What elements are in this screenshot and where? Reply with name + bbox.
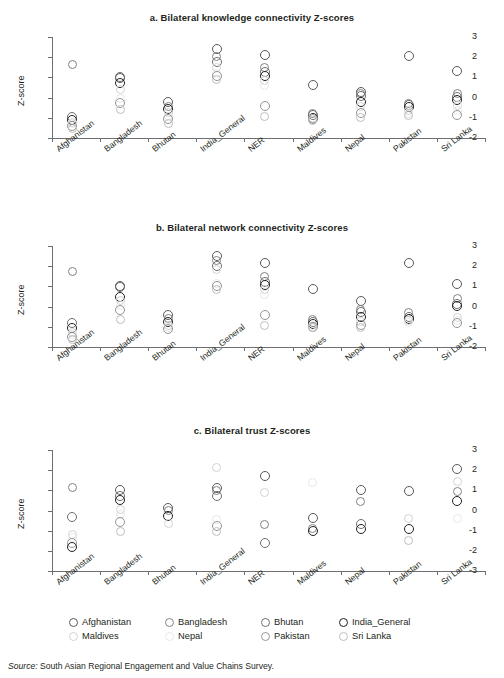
legend-item-sri-lanka[interactable]: Sri Lanka [339,631,435,641]
plot-area-b: 3210-1-2Z-scoreAfghanistanBangladeshBhut… [52,246,485,347]
data-point [260,258,270,268]
y-tick-b-2 [48,286,52,287]
y-tick-c-3 [48,511,52,512]
y-tick-label-c-3: 0 [472,506,477,515]
y-tick-label-b-4: -1 [469,322,477,331]
x-tick-c-3 [196,571,197,575]
legend-label: Bangladesh [178,617,227,627]
data-point [308,80,318,90]
y-tick-label-c-5: -2 [469,546,477,555]
data-point [115,517,125,527]
y-tick-label-a-1: 2 [472,52,477,61]
data-point [260,112,269,121]
data-point [115,282,125,292]
y-tick-label-b-0: 3 [472,241,477,250]
x-tick-b-9 [485,347,486,351]
y-tick-b-4 [48,327,52,328]
x-tick-b-6 [341,347,342,351]
plot-area-a: 3210-1-2Z-scoreAfghanistanBangladeshBhut… [52,37,485,138]
data-point [453,514,462,523]
panel-title-a: a. Bilateral knowledge connectivity Z-sc… [0,12,504,23]
x-axis-label-b-2: Bhutan [150,338,178,363]
legend-label: Sri Lanka [352,631,391,641]
x-axis-label-a-3: India_General [198,113,247,154]
legend-marker-icon [339,632,348,641]
data-point [68,335,77,344]
y-tick-c-5 [48,551,52,552]
y-tick-b-1 [48,266,52,267]
x-axis-label-c-6: Nepal [343,565,367,587]
y-tick-a-4 [48,118,52,119]
legend-item-nepal[interactable]: Nepal [165,631,261,641]
data-point [212,527,221,536]
data-point [115,305,125,315]
x-tick-c-5 [293,571,294,575]
data-point [68,483,77,492]
x-tick-c-1 [100,571,101,575]
y-tick-label-c-4: -1 [469,526,477,535]
legend-row-1: MaldivesNepalPakistanSri Lanka [0,631,504,641]
y-axis-label-b: Z-score [16,284,26,315]
panel-title-c: c. Bilateral trust Z-scores [0,425,504,436]
legend-marker-icon [165,618,174,627]
data-point [260,310,270,320]
data-point [404,536,413,545]
x-tick-a-5 [293,138,294,142]
data-point [116,315,125,324]
legend-marker-icon [261,632,270,641]
x-tick-c-6 [341,571,342,575]
legend-item-bhutan[interactable]: Bhutan [261,617,339,627]
legend-item-india-general[interactable]: India_General [339,617,435,627]
y-tick-b-3 [48,307,52,308]
y-tick-label-b-5: -2 [469,342,477,351]
x-axis-label-c-1: Bangladesh [102,551,144,587]
legend-item-maldives[interactable]: Maldives [69,631,165,641]
data-point [452,66,462,76]
data-point [356,524,366,534]
x-tick-b-1 [100,347,101,351]
source-note: Source: South Asian Regional Engagement … [8,661,274,671]
legend-item-afghanistan[interactable]: Afghanistan [69,617,165,627]
chart-legend: AfghanistanBangladeshBhutanIndia_General… [0,617,504,645]
legend-label: Afghanistan [82,617,131,627]
legend-item-pakistan[interactable]: Pakistan [261,631,339,641]
data-point [116,105,125,114]
x-tick-b-4 [244,347,245,351]
x-axis-label-b-5: Maldives [295,334,328,363]
x-axis-label-c-2: Bhutan [150,562,178,587]
y-tick-c-1 [48,470,52,471]
data-point [356,497,365,506]
y-axis-label-c: Z-score [16,498,26,529]
legend-item-bangladesh[interactable]: Bangladesh [165,617,261,627]
x-tick-b-5 [293,347,294,351]
data-point [260,488,269,497]
data-point [260,321,269,330]
data-point [308,284,318,294]
data-point [452,279,462,289]
y-tick-c-2 [48,490,52,491]
legend-marker-icon [339,618,348,627]
data-point [452,301,462,311]
y-tick-label-b-2: 1 [472,281,477,290]
data-point [308,526,318,536]
data-point [356,113,365,122]
data-point [115,495,125,505]
data-point [404,111,413,120]
x-axis-label-a-5: Maldives [295,125,328,154]
data-point [404,51,414,61]
y-axis-label-a: Z-score [16,75,26,106]
x-tick-b-8 [437,347,438,351]
data-point [452,464,462,474]
data-point [212,491,222,501]
data-point [308,513,318,523]
y-tick-a-0 [48,37,52,38]
data-point [212,463,221,472]
y-tick-c-0 [48,450,52,451]
x-axis-label-c-3: India_General [198,546,247,587]
x-tick-a-2 [148,138,149,142]
y-tick-a-1 [48,57,52,58]
data-point [453,487,462,496]
x-tick-c-2 [148,571,149,575]
x-axis-label-b-1: Bangladesh [102,327,144,363]
data-point [212,75,221,84]
